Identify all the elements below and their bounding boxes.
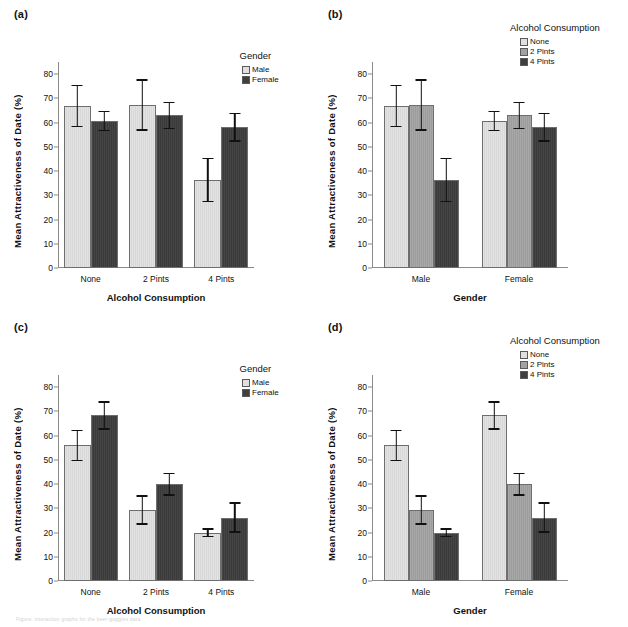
legend-item[interactable]: Male <box>242 378 279 387</box>
bar <box>64 106 91 268</box>
panel-b-legend-title: Alcohol Consumption <box>510 22 600 33</box>
error-bar-cap-top <box>72 85 83 86</box>
bar-item <box>384 62 409 268</box>
error-bar <box>539 113 550 142</box>
error-bar-cap-top <box>539 502 550 503</box>
legend-item-label: 2 Pints <box>530 360 554 369</box>
error-bar-stem <box>142 495 143 524</box>
error-bar-cap-top <box>137 495 148 496</box>
legend-item[interactable]: Male <box>242 65 279 74</box>
bar <box>532 127 557 268</box>
error-bar-cap-top <box>229 113 240 114</box>
error-bar-cap-top <box>416 79 427 80</box>
error-bar-stem <box>103 401 104 429</box>
error-bar <box>202 528 213 537</box>
error-bar-stem <box>234 113 235 142</box>
bar <box>194 533 221 581</box>
error-bar <box>391 430 402 461</box>
y-tick-mark <box>368 459 372 460</box>
panel-b-bars <box>372 62 568 268</box>
bar <box>507 115 532 268</box>
y-tick-mark <box>368 484 372 485</box>
error-bar-cap-top <box>441 158 452 159</box>
bar-item <box>434 62 459 268</box>
y-tick-mark <box>54 98 58 99</box>
bar-item <box>156 62 183 268</box>
error-bar-stem <box>103 111 104 132</box>
error-bar <box>137 495 148 524</box>
y-tick-mark <box>368 556 372 557</box>
error-bar-cap-bottom <box>489 428 500 429</box>
panel-c-y-axis-label: Mean Attractiveness of Date (%) <box>12 391 23 561</box>
error-bar-cap-top <box>391 85 402 86</box>
legend-item[interactable]: 2 Pints <box>520 360 600 369</box>
error-bar-cap-top <box>137 79 148 80</box>
legend-item[interactable]: None <box>520 350 600 359</box>
bar-item <box>409 375 434 581</box>
panel-d-label: (d) <box>328 321 343 333</box>
bar-item <box>64 375 91 581</box>
legend-swatch-icon <box>520 38 528 46</box>
panel-a-legend-title: Gender <box>232 50 279 61</box>
y-tick-mark <box>368 98 372 99</box>
legend-item[interactable]: 2 Pints <box>520 47 600 56</box>
error-bar-cap-bottom <box>202 536 213 537</box>
legend-item[interactable]: 4 Pints <box>520 370 600 379</box>
error-bar-cap-bottom <box>72 126 83 127</box>
bar <box>507 484 532 581</box>
y-tick-mark <box>368 411 372 412</box>
y-tick-mark <box>54 459 58 460</box>
legend-item-label: 4 Pints <box>530 370 554 379</box>
panel-c-plot-area: 01020304050607080None2 Pints4 Pints <box>58 375 254 581</box>
y-tick-mark <box>368 171 372 172</box>
panel-b: (b) Mean Attractiveness of Date (%) 0102… <box>314 0 628 306</box>
panel-b-y-axis-label: Mean Attractiveness of Date (%) <box>326 78 337 248</box>
bar-item <box>91 375 118 581</box>
error-bar-cap-top <box>99 401 110 402</box>
error-bar-cap-bottom <box>229 140 240 141</box>
y-tick-mark <box>368 219 372 220</box>
error-bar-cap-bottom <box>99 130 110 131</box>
y-tick-mark <box>54 146 58 147</box>
x-tick-label: 2 Pints <box>143 587 169 597</box>
error-bar-stem <box>445 158 446 202</box>
bar <box>64 445 91 581</box>
bar-group <box>470 62 568 268</box>
x-tick-label: None <box>80 587 100 597</box>
panel-a: (a) Mean Attractiveness of Date (%) 0102… <box>0 0 314 306</box>
error-bar-cap-top <box>514 473 525 474</box>
error-bar-stem <box>207 158 208 202</box>
legend-item[interactable]: Female <box>242 75 279 84</box>
bar <box>482 121 507 268</box>
error-bar-stem <box>518 102 519 129</box>
error-bar <box>489 111 500 132</box>
error-bar-cap-bottom <box>137 129 148 130</box>
bar-item <box>91 62 118 268</box>
error-bar-cap-bottom <box>391 126 402 127</box>
y-tick-mark <box>368 243 372 244</box>
x-tick-label: 2 Pints <box>143 274 169 284</box>
y-tick-mark <box>368 387 372 388</box>
error-bar <box>416 79 427 130</box>
legend-swatch-icon <box>520 371 528 379</box>
error-bar-cap-bottom <box>164 494 175 495</box>
bar-item <box>194 62 221 268</box>
bar <box>384 445 409 581</box>
bar-item <box>434 375 459 581</box>
error-bar-cap-top <box>489 401 500 402</box>
bar-group <box>189 62 254 268</box>
legend-item-label: Male <box>252 378 269 387</box>
error-bar <box>229 113 240 142</box>
panel-d-legend: Alcohol Consumption None2 Pints4 Pints <box>510 335 600 379</box>
legend-item[interactable]: None <box>520 37 600 46</box>
panel-a-plot-area: 01020304050607080None2 Pints4 Pints <box>58 62 254 268</box>
bar <box>156 115 183 268</box>
error-bar <box>416 495 427 524</box>
bar <box>91 121 118 268</box>
legend-item[interactable]: 4 Pints <box>520 57 600 66</box>
legend-swatch-icon <box>242 66 250 74</box>
error-bar-cap-top <box>202 528 213 529</box>
legend-item-label: None <box>530 37 549 46</box>
y-tick-mark <box>54 387 58 388</box>
legend-item[interactable]: Female <box>242 388 279 397</box>
